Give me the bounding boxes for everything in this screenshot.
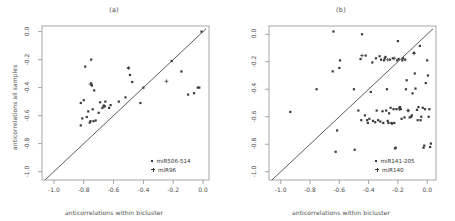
data-point-miR506-514	[129, 74, 131, 76]
data-point-miR140	[360, 54, 364, 58]
data-point-miR506-514	[109, 104, 111, 106]
data-point-miR141-205	[379, 120, 381, 122]
data-point-miR506-514	[187, 94, 189, 96]
data-point-miR506-514	[142, 87, 144, 89]
data-point-miR141-205	[379, 55, 381, 57]
xaxis-tick-label: -0.4	[357, 186, 381, 193]
data-point-miR141-205	[428, 116, 430, 118]
data-point-miR141-205	[376, 109, 378, 111]
data-point-miR141-205	[336, 129, 338, 131]
data-point-miR506-514	[180, 70, 182, 72]
data-point-miR141-205	[414, 87, 416, 89]
xaxis-tick-label: -0.6	[327, 186, 351, 193]
data-point-miR506-514	[80, 124, 82, 126]
data-point-miR141-205	[406, 79, 408, 81]
data-point-miR141-205	[371, 61, 373, 63]
data-point-miR141-205	[403, 116, 405, 118]
panel-a-yaxis-title: anticorrelations all samples	[11, 65, 18, 150]
data-point-miR141-205	[289, 111, 291, 113]
data-point-miR141-205	[392, 108, 394, 110]
data-point-miR141-205	[426, 59, 428, 61]
data-point-miR141-205	[354, 149, 356, 151]
plus-marker-icon	[375, 168, 379, 172]
data-point-miR141-205	[400, 118, 402, 120]
data-point-miR141-205	[401, 59, 403, 61]
scatter-panel-b: (b) anticorrelations within bicluster an…	[227, 0, 455, 221]
data-point-miR506-514	[81, 117, 83, 119]
data-point-miR141-205	[425, 82, 427, 84]
yaxis-tick-label: -0.8	[23, 133, 30, 153]
data-point-miR141-205	[387, 120, 389, 122]
data-point-miR506-514	[124, 96, 126, 98]
yaxis-tick-label: -0.4	[250, 79, 257, 99]
panel-b-xaxis-title: anticorrelations within bicluster	[227, 209, 455, 216]
data-point-miR506-514	[99, 101, 101, 103]
data-point-miR506-514	[104, 101, 106, 103]
data-point-miR506-514	[101, 107, 103, 109]
legend-entry-miR506-514: miR506-514	[151, 157, 191, 166]
data-point-miR141-205	[429, 146, 431, 148]
data-point-miR141-205	[430, 142, 432, 144]
data-point-miR141-205	[372, 120, 374, 122]
yaxis-tick-label: -0.6	[23, 105, 30, 125]
legend-label: miR96	[158, 166, 176, 175]
yaxis-tick-label: -1.0	[250, 161, 257, 181]
data-point-miR141-205	[338, 67, 340, 69]
data-point-miR141-205	[411, 92, 413, 94]
data-point-miR141-205	[422, 107, 424, 109]
data-point-miR141-205	[424, 108, 426, 110]
data-point-miR141-205	[365, 54, 367, 56]
xaxis-tick-label: -0.4	[131, 186, 155, 193]
yaxis-tick-label: -0.4	[23, 77, 30, 97]
data-point-miR506-514	[200, 31, 202, 33]
legend-entry-miR140: miR140	[375, 166, 415, 175]
data-point-miR140	[392, 56, 396, 60]
data-point-miR506-514	[95, 119, 97, 121]
plus-marker-icon	[151, 168, 155, 172]
data-point-miR506-514	[93, 89, 95, 91]
data-point-miR141-205	[377, 119, 379, 121]
xaxis-tick-label: -1.0	[269, 186, 293, 193]
data-point-miR141-205	[405, 88, 407, 90]
xaxis-tick-label: -0.2	[386, 186, 410, 193]
data-point-miR141-205	[353, 88, 355, 90]
square-marker-icon	[151, 160, 153, 162]
data-point-miR141-205	[388, 112, 390, 114]
xaxis-tick-label: 0.0	[191, 186, 215, 193]
data-point-miR141-205	[335, 151, 337, 153]
data-point-miR141-205	[427, 74, 429, 76]
data-point-miR96	[165, 79, 169, 83]
data-point-miR141-205	[395, 147, 397, 149]
data-point-miR506-514	[92, 108, 94, 110]
data-point-miR141-205	[411, 114, 413, 116]
data-point-miR141-205	[375, 57, 377, 59]
data-point-miR141-205	[357, 109, 359, 111]
data-point-miR141-205	[360, 119, 362, 121]
scatter-panel-a: (a) anticorrelations within bicluster an…	[0, 0, 228, 221]
data-point-miR96	[127, 66, 131, 70]
yaxis-tick-label: 0.0	[23, 21, 30, 41]
data-point-miR141-205	[374, 121, 376, 123]
data-point-miR506-514	[89, 120, 91, 122]
data-point-miR141-205	[391, 123, 393, 125]
data-point-miR141-205	[395, 108, 397, 110]
data-point-miR141-205	[316, 88, 318, 90]
xaxis-tick-label: -0.6	[102, 186, 126, 193]
data-point-miR141-205	[380, 59, 382, 61]
data-point-miR506-514	[90, 59, 92, 61]
data-point-miR506-514	[80, 102, 82, 104]
square-marker-icon	[375, 160, 377, 162]
data-point-miR506-514	[131, 81, 133, 83]
yaxis-tick-label: -0.6	[250, 106, 257, 126]
data-point-miR141-205	[366, 119, 368, 121]
data-point-miR141-205	[419, 45, 421, 47]
legend-label: miR140	[382, 166, 404, 175]
figure-panels: (a) anticorrelations within bicluster an…	[0, 0, 455, 221]
data-point-miR141-205	[332, 70, 334, 72]
xaxis-tick-label: 0.0	[415, 186, 439, 193]
data-point-miR506-514	[108, 107, 110, 109]
data-point-miR141-205	[370, 91, 372, 93]
data-point-miR506-514	[92, 120, 94, 122]
data-point-miR140	[386, 58, 390, 62]
yaxis-tick-label: -1.0	[23, 161, 30, 181]
